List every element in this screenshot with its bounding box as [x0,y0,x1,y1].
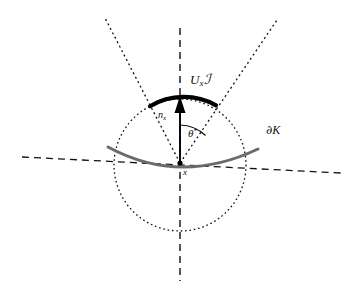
label-boundary-dK: ∂K [266,124,280,136]
diagram-svg [0,0,353,292]
label-angle-superscript: * [193,127,197,136]
boundary-curve-dK [108,147,258,167]
label-cone-operator: ℐ [203,71,211,87]
figure-canvas: Uxℐ nx θ* ∂K x [0,0,353,292]
bold-cone-arc [150,97,216,106]
label-boundary-set: K [272,123,280,137]
cone-ray-right [180,20,277,163]
center-point-marker [177,160,182,165]
label-normal-vector: nx [158,110,166,122]
label-angle-theta: θ* [188,128,197,139]
label-cone-set: Uxℐ [190,72,211,88]
label-point-x: x [183,168,187,177]
label-normal-subscript: x [163,114,166,122]
cone-ray-left [105,18,180,163]
label-cone-base: U [190,72,199,87]
